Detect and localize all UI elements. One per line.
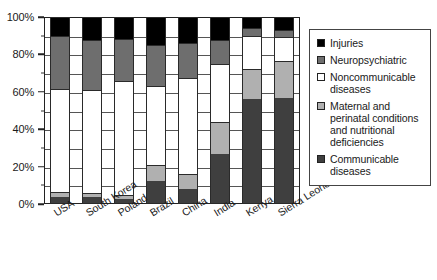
bar-segment [210, 17, 229, 40]
bar-segment [146, 45, 165, 86]
bar-segment [210, 40, 229, 63]
y-axis-tick-label: 20% [13, 161, 34, 172]
bar-segment [210, 154, 229, 204]
legend-item-label: Neuropsychiatric [330, 54, 407, 66]
x-axis: USASouth KoreaPolandBrazilChinaIndiaKeny… [44, 204, 300, 280]
y-axis-tick-label: 60% [13, 86, 34, 97]
bar-kenya [242, 17, 261, 204]
y-axis-tick-label: 80% [13, 49, 34, 60]
legend-swatch-icon [317, 39, 325, 47]
bar-segment [50, 36, 69, 89]
bar-segment [274, 17, 293, 30]
legend-item-label: Communicable diseases [330, 153, 424, 177]
bar-sierra-leone [274, 17, 293, 204]
bar-segment [146, 86, 165, 165]
legend-swatch-icon [317, 155, 325, 163]
bar-segment [242, 36, 261, 70]
bar-segment [178, 17, 197, 43]
bar-segment [274, 37, 293, 61]
bar-segment [146, 17, 165, 45]
bar-segment [114, 17, 133, 39]
bar-segment [82, 40, 101, 90]
bar-segment [82, 90, 101, 193]
legend-item: Communicable diseases [317, 153, 424, 177]
bar-segment [242, 17, 261, 28]
bar-segment [50, 17, 69, 36]
bar-segment [242, 99, 261, 204]
bar-segment [146, 165, 165, 181]
bar-poland [114, 17, 133, 204]
bar-segment [82, 17, 101, 40]
bar-segment [178, 43, 197, 78]
legend-item-label: Maternal and perinatal conditions and nu… [330, 100, 424, 148]
bar-usa [50, 17, 69, 204]
bar-segment [242, 28, 261, 35]
y-axis-tick-label: 40% [13, 124, 34, 135]
bars-layer [44, 17, 300, 204]
bar-segment [114, 39, 133, 80]
legend-item: Maternal and perinatal conditions and nu… [317, 100, 424, 148]
bar-segment [210, 64, 229, 122]
legend-swatch-icon [317, 73, 325, 81]
legend-item-label: Noncommunicable diseases [330, 71, 424, 95]
stacked-bar-chart: 0%20%40%60%80%100% USASouth KoreaPolandB… [0, 0, 437, 280]
bar-china [178, 17, 197, 204]
bar-segment [274, 98, 293, 204]
legend-swatch-icon [317, 56, 325, 64]
bar-segment [242, 69, 261, 99]
bar-segment [50, 89, 69, 192]
bar-segment [178, 78, 197, 174]
bar-segment [178, 174, 197, 189]
bar-brazil [146, 17, 165, 204]
legend-item: Neuropsychiatric [317, 54, 424, 66]
legend-swatch-icon [317, 102, 325, 110]
legend-item-label: Injuries [330, 37, 363, 49]
y-axis-tick-label: 0% [19, 199, 35, 210]
bar-india [210, 17, 229, 204]
y-axis-tick-label: 100% [7, 12, 34, 23]
chart-legend: InjuriesNeuropsychiatricNoncommunicable … [309, 29, 431, 186]
bar-south-korea [82, 17, 101, 204]
legend-item: Injuries [317, 37, 424, 49]
legend-item: Noncommunicable diseases [317, 71, 424, 95]
bar-segment [274, 61, 293, 98]
bar-segment [210, 122, 229, 155]
y-axis: 0%20%40%60%80%100% [0, 0, 44, 280]
